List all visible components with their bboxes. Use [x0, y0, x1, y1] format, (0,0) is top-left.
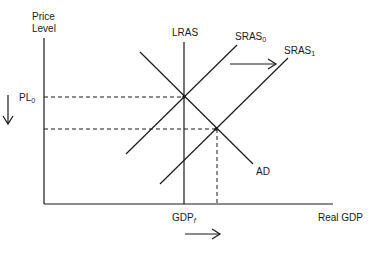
- pl0-label: PL0: [19, 92, 35, 106]
- sras0-subscript: 0: [262, 36, 266, 43]
- sras1-subscript: 1: [311, 50, 315, 57]
- pl-subscript: 0: [31, 97, 35, 104]
- sras-shift-arrow-icon: [230, 59, 276, 69]
- y-axis-label-line1: Price: [32, 11, 55, 22]
- gdp-right-arrow-icon: [185, 229, 220, 239]
- ad-curve: [140, 52, 253, 164]
- lras-label: LRAS: [172, 27, 198, 38]
- gdpf-label: GDPf: [172, 212, 196, 226]
- sras1-text: SRAS: [284, 45, 311, 56]
- price-down-arrow-icon: [3, 95, 13, 124]
- equilibrium-point-0: [182, 95, 186, 99]
- y-axis-label-line2: Level: [32, 23, 56, 34]
- sras1-label: SRAS1: [284, 45, 315, 59]
- sras0-curve: [126, 45, 237, 154]
- ad-label: AD: [256, 166, 270, 177]
- gdp-text: GDP: [172, 212, 194, 223]
- sras0-label: SRAS0: [235, 31, 266, 45]
- sras0-text: SRAS: [235, 31, 262, 42]
- pl-text: PL: [19, 92, 31, 103]
- equilibrium-point-1: [214, 127, 218, 131]
- gdp-subscript: f: [194, 217, 196, 224]
- x-axis-label: Real GDP: [318, 212, 363, 223]
